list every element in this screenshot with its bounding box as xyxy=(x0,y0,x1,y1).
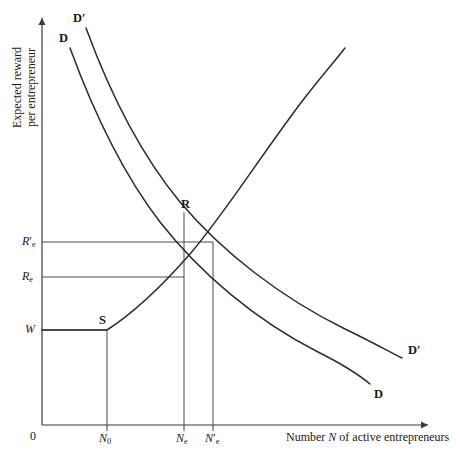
x-tick-label-n0-base: N xyxy=(99,431,107,445)
axis-lines xyxy=(42,18,428,425)
supply-curve-s xyxy=(42,48,345,330)
origin-label: 0 xyxy=(30,430,36,442)
demand-curve-d-prime xyxy=(86,28,402,358)
curve-label-dprime-right: D′ xyxy=(408,344,421,357)
guide-lines xyxy=(42,212,213,425)
x-axis-ticks xyxy=(107,425,213,431)
y-tick-label-re: Re xyxy=(22,270,33,282)
x-axis-title: Number N of active entrepreneurs xyxy=(286,430,449,445)
y-tick-label-re-sub: e xyxy=(29,275,33,284)
x-tick-label-ne-base: N xyxy=(176,431,184,445)
x-tick-label-n0: N0 xyxy=(99,432,111,444)
y-tick-label-w-text: W xyxy=(25,322,35,336)
y-axis-title-line1: Expected reward xyxy=(10,47,24,128)
chart-plot-area xyxy=(0,0,460,454)
economics-chart-figure: Expected reward per entrepreneur Number … xyxy=(0,0,460,454)
y-tick-label-w: W xyxy=(25,323,35,335)
point-label-s-text: S xyxy=(99,313,106,327)
curve-label-d-topleft: D xyxy=(59,32,68,45)
curve-label-d-right-text: D xyxy=(374,387,383,401)
curve-label-d-right: D xyxy=(374,388,383,401)
x-axis-title-before: Number xyxy=(286,430,328,444)
point-label-r: R xyxy=(181,198,190,211)
y-axis-title-line2: per entrepreneur xyxy=(24,47,38,128)
point-label-s: S xyxy=(99,314,106,327)
curve-label-dprime-topleft-text: D′ xyxy=(73,11,86,25)
curve-label-d-topleft-text: D xyxy=(59,31,68,45)
curve-label-dprime-topleft: D′ xyxy=(73,12,86,25)
x-tick-label-n0-sub: 0 xyxy=(107,437,111,446)
x-tick-label-nprime-e-base: N xyxy=(205,431,213,445)
x-tick-label-nprime-e: N′e xyxy=(205,432,219,444)
x-axis-title-after: of active entrepreneurs xyxy=(336,430,449,444)
origin-label-text: 0 xyxy=(30,429,36,443)
point-label-r-text: R xyxy=(181,197,190,211)
y-tick-label-rprime-e-sub: e xyxy=(32,240,36,249)
x-tick-label-ne-sub: e xyxy=(184,437,188,446)
curve-label-dprime-right-text: D′ xyxy=(408,343,421,357)
y-axis-title: Expected reward per entrepreneur xyxy=(10,47,38,128)
y-tick-label-rprime-e: R′e xyxy=(22,235,36,247)
x-tick-label-nprime-e-sub: e xyxy=(216,437,220,446)
curves xyxy=(42,28,402,384)
x-tick-label-ne: Ne xyxy=(176,432,188,444)
